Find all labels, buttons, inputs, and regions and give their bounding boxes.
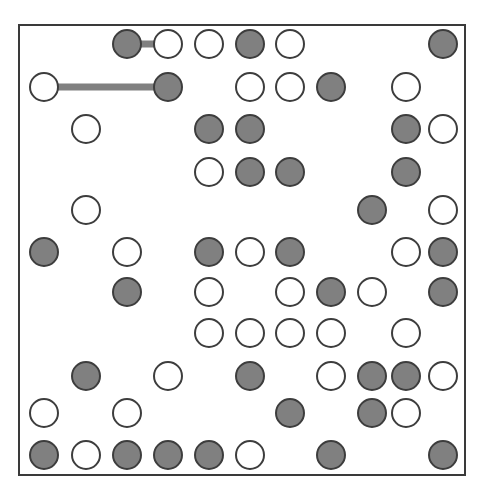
filled-node[interactable] xyxy=(153,72,183,102)
filled-node[interactable] xyxy=(316,72,346,102)
filled-node[interactable] xyxy=(428,277,458,307)
filled-node[interactable] xyxy=(357,195,387,225)
open-node[interactable] xyxy=(112,237,142,267)
open-node[interactable] xyxy=(391,318,421,348)
open-node[interactable] xyxy=(29,72,59,102)
filled-node[interactable] xyxy=(112,440,142,470)
open-node[interactable] xyxy=(391,72,421,102)
open-node[interactable] xyxy=(428,114,458,144)
open-node[interactable] xyxy=(194,29,224,59)
filled-node[interactable] xyxy=(194,237,224,267)
open-node[interactable] xyxy=(391,398,421,428)
filled-node[interactable] xyxy=(391,114,421,144)
filled-node[interactable] xyxy=(391,157,421,187)
open-node[interactable] xyxy=(235,440,265,470)
open-node[interactable] xyxy=(235,72,265,102)
open-node[interactable] xyxy=(428,361,458,391)
filled-node[interactable] xyxy=(29,237,59,267)
filled-node[interactable] xyxy=(112,277,142,307)
filled-node[interactable] xyxy=(275,157,305,187)
filled-node[interactable] xyxy=(235,361,265,391)
open-node[interactable] xyxy=(428,195,458,225)
open-node[interactable] xyxy=(235,318,265,348)
open-node[interactable] xyxy=(194,277,224,307)
open-node[interactable] xyxy=(275,29,305,59)
filled-node[interactable] xyxy=(235,114,265,144)
open-node[interactable] xyxy=(29,398,59,428)
filled-node[interactable] xyxy=(235,29,265,59)
filled-node[interactable] xyxy=(357,361,387,391)
open-node[interactable] xyxy=(153,29,183,59)
open-node[interactable] xyxy=(71,195,101,225)
open-node[interactable] xyxy=(275,277,305,307)
open-node[interactable] xyxy=(357,277,387,307)
open-node[interactable] xyxy=(235,237,265,267)
open-node[interactable] xyxy=(153,361,183,391)
open-node[interactable] xyxy=(194,157,224,187)
open-node[interactable] xyxy=(194,318,224,348)
filled-node[interactable] xyxy=(71,361,101,391)
node-layer xyxy=(0,0,484,501)
filled-node[interactable] xyxy=(29,440,59,470)
filled-node[interactable] xyxy=(235,157,265,187)
filled-node[interactable] xyxy=(428,29,458,59)
filled-node[interactable] xyxy=(316,440,346,470)
filled-node[interactable] xyxy=(153,440,183,470)
filled-node[interactable] xyxy=(275,398,305,428)
open-node[interactable] xyxy=(275,318,305,348)
open-node[interactable] xyxy=(71,114,101,144)
filled-node[interactable] xyxy=(275,237,305,267)
open-node[interactable] xyxy=(391,237,421,267)
filled-node[interactable] xyxy=(316,277,346,307)
open-node[interactable] xyxy=(316,318,346,348)
open-node[interactable] xyxy=(316,361,346,391)
open-node[interactable] xyxy=(112,398,142,428)
open-node[interactable] xyxy=(71,440,101,470)
open-node[interactable] xyxy=(275,72,305,102)
diagram-canvas xyxy=(0,0,484,501)
filled-node[interactable] xyxy=(391,361,421,391)
filled-node[interactable] xyxy=(194,114,224,144)
filled-node[interactable] xyxy=(428,440,458,470)
filled-node[interactable] xyxy=(112,29,142,59)
filled-node[interactable] xyxy=(357,398,387,428)
filled-node[interactable] xyxy=(194,440,224,470)
filled-node[interactable] xyxy=(428,237,458,267)
